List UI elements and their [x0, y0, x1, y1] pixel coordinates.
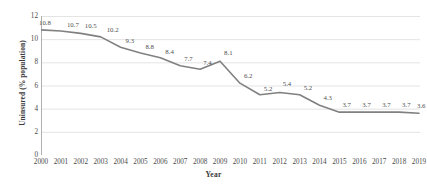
y-tick-label: 6: [22, 82, 38, 90]
y-tick-label: 12: [22, 12, 38, 20]
data-series-line: [41, 30, 419, 113]
x-axis-tick-labels: 2000200120022003200420052006200720082009…: [41, 157, 420, 169]
plot-svg: [41, 16, 420, 155]
line-chart: Uninsured (% population) 024681012 10.81…: [0, 0, 427, 188]
y-tick-label: 8: [22, 58, 38, 66]
x-tick-label: 2019: [406, 157, 427, 167]
gridlines: [41, 17, 420, 156]
y-tick-label: 4: [22, 105, 38, 113]
y-tick-label: 10: [22, 35, 38, 43]
y-tick-label: 2: [22, 128, 38, 136]
plot-area: [41, 16, 420, 155]
x-axis-title: Year: [0, 170, 427, 179]
